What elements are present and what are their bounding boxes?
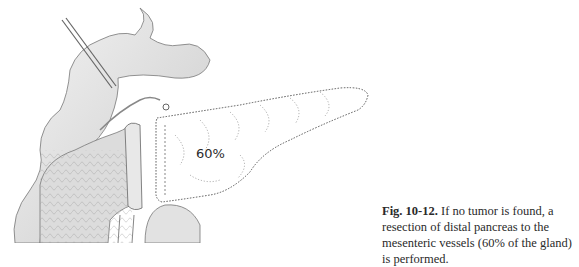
bowel-loop-shape (145, 205, 200, 243)
figure-caption: Fig. 10-12. If no tumor is found, a rese… (382, 203, 578, 267)
resection-percentage-label: 60% (196, 146, 225, 161)
resected-distal-pancreas-outline (156, 88, 368, 202)
figure-number: Fig. 10-12. (382, 204, 438, 218)
